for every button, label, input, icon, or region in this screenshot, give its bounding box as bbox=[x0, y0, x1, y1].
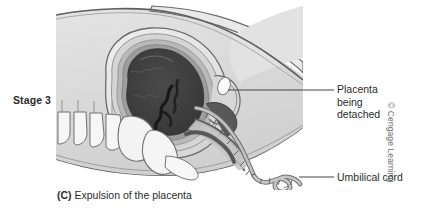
caption-tag: (C) bbox=[57, 189, 72, 201]
figure-panel: Stage 3 Placenta being detached Umbilica… bbox=[0, 0, 430, 218]
figure-caption: (C) Expulsion of the placenta bbox=[57, 189, 192, 201]
label-placenta-line-2: being bbox=[337, 96, 407, 109]
label-placenta-line-1: Placenta bbox=[337, 83, 407, 96]
copyright-notice: © Cengage Learning bbox=[386, 102, 396, 182]
label-placenta-being-detached: Placenta being detached bbox=[337, 83, 407, 121]
stage-label: Stage 3 bbox=[13, 94, 51, 106]
label-placenta-line-3: detached bbox=[337, 108, 407, 121]
caption-text: Expulsion of the placenta bbox=[75, 189, 192, 201]
